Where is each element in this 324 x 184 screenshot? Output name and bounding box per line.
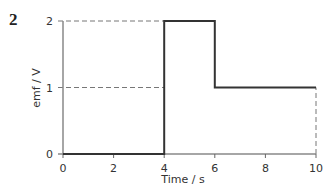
axis-ticks: 0246810012 [46,15,323,175]
x-tick-label: 6 [211,162,218,175]
y-tick-label: 2 [46,15,53,28]
x-axis-label: Time / s [160,173,205,184]
y-tick-label: 1 [46,82,53,95]
x-tick-label: 8 [262,162,269,175]
y-axis-label: emf / V [30,68,43,108]
emf-time-chart: 0246810012 emf / V Time / s [0,0,324,184]
x-tick-label: 0 [60,162,67,175]
x-tick-label: 10 [309,162,323,175]
x-tick-label: 2 [110,162,117,175]
y-tick-label: 0 [46,148,53,161]
